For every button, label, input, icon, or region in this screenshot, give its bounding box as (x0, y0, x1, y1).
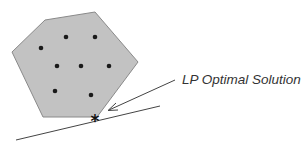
integer-point (93, 35, 98, 40)
integer-point (89, 93, 94, 98)
integer-point (64, 35, 69, 40)
integer-point (107, 64, 112, 69)
optimal-point-star-icon: * (91, 111, 100, 131)
integer-point (79, 64, 84, 69)
integer-point (53, 89, 58, 94)
integer-point (39, 46, 44, 51)
feasible-region (12, 12, 138, 117)
lp-optimal-solution-label: LP Optimal Solution (182, 72, 301, 87)
integer-point (55, 64, 60, 69)
